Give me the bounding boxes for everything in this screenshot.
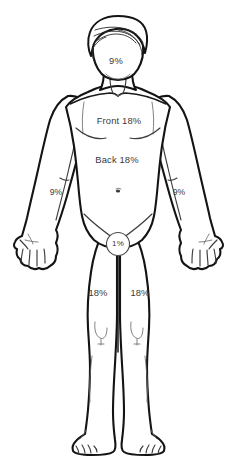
- body-diagram: 9% Front 18% Back 18% 9% 9% 1% 18% 18%: [0, 0, 237, 468]
- navel: [116, 189, 120, 192]
- right-leg-percentage-label: 18%: [130, 287, 149, 298]
- groin-percentage-label: 1%: [112, 239, 124, 248]
- right-arm-percentage-label: 9%: [173, 187, 186, 197]
- left-leg-percentage-label: 18%: [88, 287, 107, 298]
- left-leg-outline: [73, 232, 117, 455]
- right-leg-outline: [120, 232, 164, 455]
- torso-outline: [66, 84, 170, 248]
- front-torso-percentage-label: Front 18%: [97, 115, 142, 126]
- back-torso-percentage-label: Back 18%: [95, 154, 138, 165]
- rule-of-nines-figure: 9% Front 18% Back 18% 9% 9% 1% 18% 18%: [0, 0, 237, 468]
- head-percentage-label: 9%: [109, 55, 123, 66]
- left-arm-percentage-label: 9%: [50, 187, 63, 197]
